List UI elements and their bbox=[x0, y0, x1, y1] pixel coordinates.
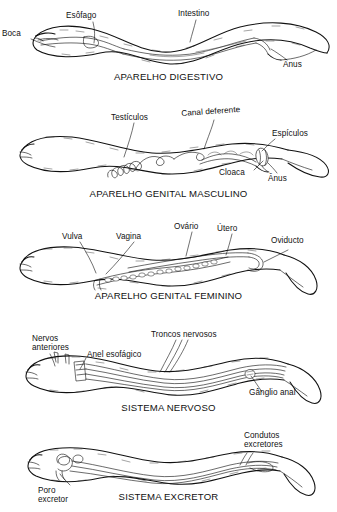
label-vagina: Vagina bbox=[116, 232, 141, 241]
label-anel-esofagico: Anel esofágico bbox=[87, 350, 141, 359]
female-genital-system-drawing bbox=[0, 210, 337, 322]
label-espiculos: Espículos bbox=[272, 129, 308, 138]
nematode-anatomy-sheet: Boca Esôfago Intestino Ânus APARELHO DIG… bbox=[0, 0, 337, 512]
title-digestive: APARELHO DIGESTIVO bbox=[0, 71, 337, 82]
label-esofago: Esôfago bbox=[66, 11, 96, 20]
label-anus-male: Ânus bbox=[268, 174, 287, 183]
title-nervous: SISTEMA NERVOSO bbox=[0, 402, 337, 413]
label-testiculos: Testículos bbox=[111, 113, 148, 122]
title-male-genital: APARELHO GENITAL MASCULINO bbox=[0, 188, 337, 199]
panel-digestive-system: Boca Esôfago Intestino Ânus APARELHO DIG… bbox=[0, 0, 337, 95]
panel-excretory-system: Condutos excretores Poro excretor SISTEM… bbox=[0, 427, 337, 512]
panel-male-genital-system: Testículos Canal deferente Espículos Clo… bbox=[0, 95, 337, 210]
label-boca: Boca bbox=[2, 29, 21, 38]
label-ganglio-anal: Gânglio anal bbox=[249, 388, 296, 397]
label-nervos-anteriores: Nervos anteriores bbox=[32, 334, 69, 352]
title-excretory: SISTEMA EXCRETOR bbox=[0, 491, 337, 502]
panel-female-genital-system: Vulva Vagina Ovário Útero Oviducto APARE… bbox=[0, 210, 337, 322]
label-intestino: Intestino bbox=[178, 9, 209, 18]
label-troncos-nervosos: Troncos nervosos bbox=[151, 330, 217, 339]
panel-nervous-system: Nervos anteriores Anel esofágico Troncos… bbox=[0, 322, 337, 427]
label-anus-digestive: Ânus bbox=[283, 60, 302, 69]
title-female-genital: APARELHO GENITAL FEMININO bbox=[0, 290, 337, 301]
label-utero: Útero bbox=[217, 224, 237, 233]
label-cloaca: Cloaca bbox=[219, 168, 245, 177]
label-ovario: Ovário bbox=[174, 222, 198, 231]
label-oviducto: Oviducto bbox=[271, 236, 304, 245]
label-condutos-excretores: Condutos excretores bbox=[244, 431, 283, 449]
label-vulva: Vulva bbox=[62, 232, 82, 241]
